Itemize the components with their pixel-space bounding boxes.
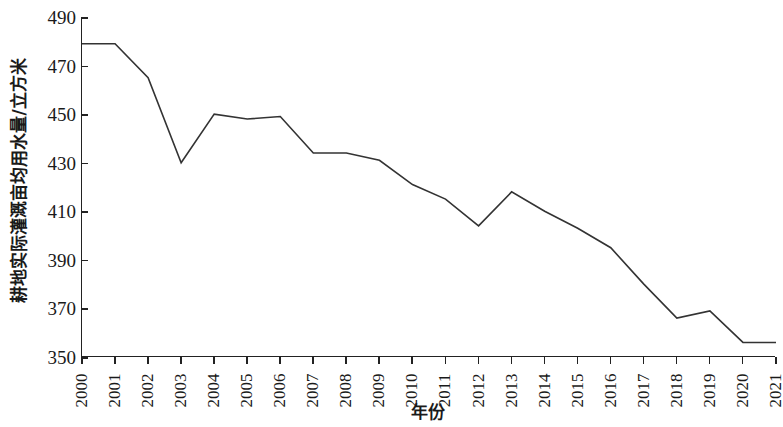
y-tick-mark bbox=[81, 66, 88, 68]
x-tick-mark bbox=[676, 357, 678, 364]
x-tick-mark bbox=[378, 357, 380, 364]
y-tick-label: 370 bbox=[28, 299, 76, 318]
x-tick-mark bbox=[577, 357, 579, 364]
x-tick-mark bbox=[643, 357, 645, 364]
y-tick-label: 490 bbox=[28, 8, 76, 27]
x-tick-mark bbox=[345, 357, 347, 364]
x-tick-mark bbox=[246, 357, 248, 364]
x-tick-mark bbox=[279, 357, 281, 364]
x-tick-mark bbox=[544, 357, 546, 364]
y-tick-mark bbox=[81, 17, 88, 19]
line-chart: 耕地实际灌溉亩均用水量/立方米 350370390410430450470490… bbox=[0, 0, 783, 427]
plot-area bbox=[81, 17, 775, 357]
x-tick-mark bbox=[411, 357, 413, 364]
x-tick-mark bbox=[478, 357, 480, 364]
data-line-series bbox=[82, 17, 776, 357]
x-axis-title: 年份 bbox=[81, 398, 775, 423]
x-tick-mark bbox=[511, 357, 513, 364]
y-tick-label: 390 bbox=[28, 251, 76, 270]
x-tick-mark bbox=[709, 357, 711, 364]
x-tick-mark bbox=[114, 357, 116, 364]
x-tick-mark bbox=[213, 357, 215, 364]
y-tick-mark bbox=[81, 260, 88, 262]
y-axis-tick-labels: 350370390410430450470490 bbox=[28, 0, 76, 380]
x-tick-mark bbox=[147, 357, 149, 364]
x-tick-mark bbox=[81, 357, 83, 364]
x-tick-mark bbox=[445, 357, 447, 364]
y-axis-title-text: 耕地实际灌溉亩均用水量/立方米 bbox=[5, 58, 30, 302]
y-tick-label: 470 bbox=[28, 57, 76, 76]
y-tick-label: 450 bbox=[28, 105, 76, 124]
y-tick-mark bbox=[81, 308, 88, 310]
y-tick-label: 430 bbox=[28, 154, 76, 173]
x-tick-mark bbox=[742, 357, 744, 364]
x-tick-mark bbox=[180, 357, 182, 364]
x-tick-mark bbox=[312, 357, 314, 364]
y-tick-label: 410 bbox=[28, 202, 76, 221]
x-tick-mark bbox=[610, 357, 612, 364]
y-tick-mark bbox=[81, 114, 88, 116]
x-tick-mark bbox=[775, 357, 777, 364]
y-tick-mark bbox=[81, 211, 88, 213]
y-tick-mark bbox=[81, 163, 88, 165]
